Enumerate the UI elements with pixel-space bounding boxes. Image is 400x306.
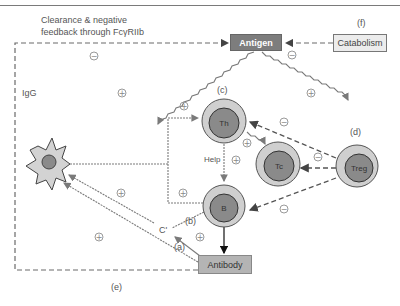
minus-sign-treg-b: − (280, 205, 289, 214)
antigen-label: Antigen (239, 38, 273, 48)
minus-sign-clearance: − (90, 52, 99, 61)
b-label: B (221, 204, 226, 213)
label-a: (a) (174, 242, 185, 253)
catabolism-box: Catabolism (333, 34, 387, 52)
cprime-to-apc (69, 175, 154, 223)
label-d: (d) (350, 127, 361, 138)
catabolism-label: Catabolism (337, 38, 382, 48)
minus-sign-treg-th: − (280, 118, 289, 127)
label-e: (e) (111, 282, 122, 293)
label-c: (c) (217, 85, 228, 96)
label-f: (f) (357, 18, 366, 29)
plus-sign-help: + (232, 156, 241, 165)
th-label: Th (219, 119, 228, 128)
help-label: Help (204, 154, 220, 165)
plus-sign-apc-b: + (179, 189, 188, 198)
label-b: (b) (185, 216, 196, 227)
plus-sign-cprime-apc: + (117, 189, 126, 198)
plus-sign-antigen-treg: + (307, 89, 316, 98)
antigen-to-treg (262, 52, 348, 100)
antibody-label: Antibody (207, 260, 242, 270)
plus-sign-antigen-apc: + (118, 89, 127, 98)
treg-label: Treg (351, 164, 367, 173)
apc-to-th-bracket (64, 118, 198, 164)
igg-label: IgG (22, 88, 37, 99)
tc-label: Tc (275, 162, 283, 171)
treg-to-b (250, 178, 336, 210)
antibody-box: Antibody (198, 255, 252, 274)
minus-sign-catabolism: − (288, 51, 297, 60)
apc-cell (26, 138, 70, 190)
antigen-box: Antigen (230, 34, 282, 51)
plus-sign-apc-th: + (180, 102, 189, 111)
clearance-label-line2: feedback through FcγRIIb (41, 27, 144, 38)
c-prime-label: C' (159, 225, 167, 236)
plus-sign-antibody-cprime: + (196, 233, 205, 242)
plus-sign-th-tc: + (243, 139, 252, 148)
minus-sign-treg-tc: − (314, 153, 323, 162)
plus-sign-antibody-apc: + (95, 233, 104, 242)
clearance-label-line1: Clearance & negative (41, 15, 127, 26)
